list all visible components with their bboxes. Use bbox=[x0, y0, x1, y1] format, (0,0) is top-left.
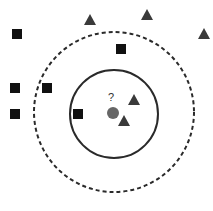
triangle-point bbox=[84, 14, 96, 25]
triangle-point bbox=[198, 28, 210, 39]
triangle-point bbox=[128, 94, 140, 105]
triangle-class-points bbox=[84, 9, 210, 126]
knn-diagram: ? bbox=[0, 0, 213, 211]
square-point bbox=[116, 44, 126, 54]
query-point bbox=[107, 107, 119, 119]
square-point bbox=[10, 109, 20, 119]
square-point bbox=[12, 29, 22, 39]
triangle-point bbox=[118, 115, 130, 126]
square-point bbox=[10, 83, 20, 93]
square-point bbox=[42, 83, 52, 93]
triangle-point bbox=[141, 9, 153, 20]
square-class-points bbox=[10, 29, 126, 119]
square-point bbox=[73, 109, 83, 119]
query-label: ? bbox=[108, 91, 114, 103]
